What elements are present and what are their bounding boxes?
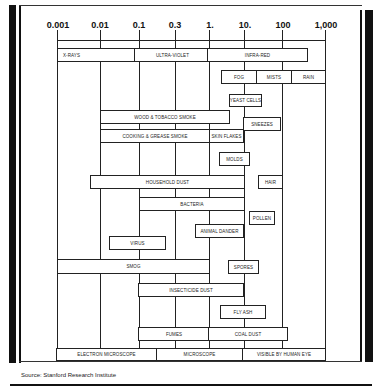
band-animal-dander: ANIMAL DANDER <box>195 224 244 238</box>
band-fly-ash: FLY ASH <box>220 305 266 319</box>
gridline-0.001 <box>57 30 58 348</box>
band-household-dust: HOUSEHOLD DUST <box>90 175 245 189</box>
band-pollen: POLLEN <box>249 211 275 225</box>
gridline-0.3 <box>175 30 176 348</box>
frame-border-bottom <box>19 361 362 362</box>
band-spores: SPORES <box>228 260 259 274</box>
band-ultra-violet: ULTRA-VIOLET <box>134 48 211 62</box>
axis-tick-100: 100 <box>275 20 290 30</box>
band-smog: SMOG <box>57 259 210 274</box>
band-visible-by-human-eye: VISIBLE BY HUMAN EYE <box>242 348 326 361</box>
bottom-rule <box>10 384 372 386</box>
axis-tick-10: 10. <box>239 20 252 30</box>
frame-border-right-inner <box>360 10 362 362</box>
band-infra-red: INFRA-RED <box>207 48 308 62</box>
band-coal-dust: COAL DUST <box>208 327 288 341</box>
axis-tick-1000: 1,000 <box>315 20 338 30</box>
band-electron-microscope: ELECTRON MICROSCOPE <box>56 348 157 361</box>
frame-border-left-inner <box>19 5 21 363</box>
band-microscope: MICROSCOPE <box>156 348 243 361</box>
axis-baseline <box>57 40 326 41</box>
band-mists: MISTS <box>256 70 292 84</box>
band-fumes: FUMES <box>138 327 210 341</box>
band-insecticide-dust: INSECTICIDE DUST <box>138 283 244 297</box>
band-bacteria: BACTERIA <box>139 197 245 211</box>
band-virus: VIRUS <box>109 236 166 250</box>
frame-border-left <box>9 5 16 363</box>
axis-tick-0.3: 0.3 <box>169 20 182 30</box>
band-yeast-cells: YEAST CELLS <box>229 94 262 107</box>
axis-tick-0.001: 0.001 <box>47 20 70 30</box>
frame-border-top <box>19 5 362 6</box>
source-caption: Source: Stanford Research Institute <box>21 372 116 378</box>
band-hair: HAIR <box>258 175 283 189</box>
band-rain: RAIN <box>291 70 326 84</box>
axis-tick-0.1: 0.1 <box>133 20 146 30</box>
band-sneezes: SNEEZES <box>243 117 281 131</box>
axis-tick-1: 1. <box>206 20 214 30</box>
frame-border-right <box>365 10 373 362</box>
gridline-1 <box>209 30 210 348</box>
band-fog: FOG <box>221 70 257 84</box>
gridline-0.01 <box>100 30 101 348</box>
band-wood-tobacco-smoke: WOOD & TOBACCO SMOKE <box>100 110 230 124</box>
axis-tick-0.01: 0.01 <box>91 20 109 30</box>
gridline-0.1 <box>139 30 140 348</box>
band-skin-flakes: SKIN FLAKES <box>209 129 244 143</box>
band-molds: MOLDS <box>219 152 250 166</box>
band-x-rays: X-RAYS <box>57 48 135 62</box>
band-cooking-grease-smoke: COOKING & GREASE SMOKE <box>100 129 210 143</box>
